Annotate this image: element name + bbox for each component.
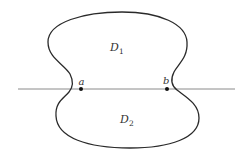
region-d1-subscript: 1 bbox=[119, 47, 124, 56]
point-a-label: a bbox=[79, 76, 85, 87]
region-d2-subscript: 2 bbox=[129, 119, 134, 128]
point-a-marker bbox=[79, 87, 83, 91]
region-d1-letter: D bbox=[109, 41, 119, 54]
point-b-label: b bbox=[163, 75, 169, 86]
region-d1-label: D 1 bbox=[109, 41, 124, 56]
point-b-marker bbox=[165, 87, 169, 91]
region-boundary-curve bbox=[48, 12, 199, 148]
region-d2-label: D 2 bbox=[119, 113, 134, 128]
diagram-canvas: a b D 1 D 2 bbox=[0, 0, 246, 155]
region-d2-letter: D bbox=[119, 113, 129, 126]
